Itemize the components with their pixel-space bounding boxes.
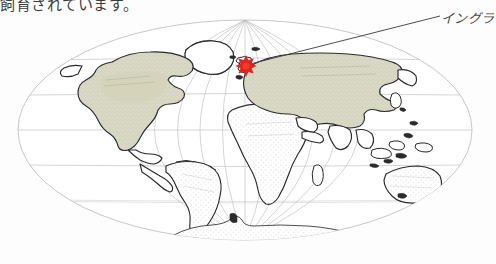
body-text-line: 飼育されています。	[0, 0, 200, 15]
landmass-madagascar	[312, 165, 323, 186]
annotation-label: イングラ	[441, 8, 495, 27]
landmass-japan	[390, 93, 401, 108]
world-map-figure	[0, 14, 496, 264]
landmass-new-zealand	[436, 191, 458, 214]
world-map-svg	[0, 14, 496, 264]
